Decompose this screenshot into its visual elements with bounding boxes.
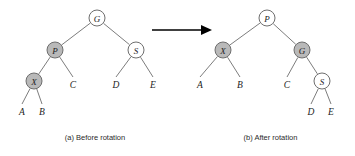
node-label: G: [299, 46, 306, 56]
leaf-label-e-after: E: [327, 107, 334, 117]
edges-layer: [22, 23, 331, 104]
caption-after-rotation: (b) After rotation: [178, 133, 355, 142]
tree-edge-b-G-b-S: [104, 23, 130, 44]
node-label: P: [51, 46, 58, 56]
node-label: S: [134, 46, 139, 56]
tree-edge-b-X-b-B: [37, 89, 42, 104]
node-label: G: [94, 14, 101, 24]
tree-edge-a-P-a-X: [230, 23, 260, 45]
leaf-labels-layer: ABCDEABCDE: [18, 80, 334, 117]
tree-edge-b-G-b-P: [62, 23, 90, 45]
tree-edge-b-S-b-E: [141, 57, 153, 77]
caption-before-rotation: (a) Before rotation: [0, 133, 190, 142]
leaf-label-b-after: B: [237, 80, 243, 90]
tree-edge-b-X-b-A: [22, 89, 30, 104]
tree-edge-a-P-a-G: [273, 24, 295, 45]
node-label: S: [320, 77, 325, 87]
node-label: P: [263, 14, 270, 24]
node-label: X: [30, 77, 37, 87]
rotation-figure: GPSXPXGS ABCDEABCDE (a) Before rotation …: [0, 0, 355, 156]
tree-node-p-after: P: [259, 10, 275, 26]
tree-node-x-after: X: [215, 42, 231, 58]
tree-edge-a-G-a-S: [307, 57, 318, 74]
tree-edge-b-P-b-X: [39, 57, 50, 74]
leaf-label-d-after: D: [307, 107, 315, 117]
leaf-label-d-before: D: [112, 80, 120, 90]
leaf-label-a-after: A: [196, 80, 203, 90]
tree-node-p-before: P: [47, 42, 63, 58]
tree-edge-a-S-a-E: [325, 89, 331, 104]
tree-node-g-before: G: [89, 10, 105, 26]
node-label: X: [219, 46, 226, 56]
tree-node-x-before: X: [26, 73, 42, 89]
tree-edge-a-X-a-A: [200, 56, 217, 77]
tree-edge-a-X-a-B: [228, 57, 240, 77]
tree-edge-a-G-a-C: [287, 57, 298, 77]
leaf-label-c-after: C: [284, 80, 291, 90]
tree-node-g-after: G: [294, 42, 310, 58]
leaf-label-c-before: C: [70, 80, 77, 90]
leaf-label-e-before: E: [149, 80, 156, 90]
transformation-arrow: [152, 25, 212, 35]
tree-node-s-after: S: [314, 73, 330, 89]
nodes-layer: GPSXPXGS: [26, 10, 330, 89]
tree-edge-b-P-b-C: [60, 57, 73, 77]
tree-edge-a-S-a-D: [311, 89, 318, 104]
leaf-label-b-before: B: [39, 107, 45, 117]
tree-edge-b-S-b-D: [116, 57, 131, 77]
leaf-label-a-before: A: [18, 107, 25, 117]
arrow-head: [201, 25, 212, 35]
tree-node-s-before: S: [128, 42, 144, 58]
